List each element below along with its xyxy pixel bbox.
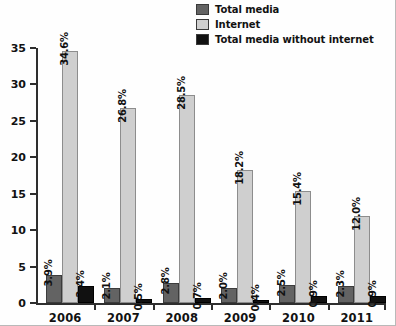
y-axis-tick-label: 20 [11, 151, 26, 164]
bar-value-label: 0.7% [192, 282, 203, 309]
bar-group: 2.1%26.8%0.5%2007 [94, 48, 152, 303]
legend-swatch-total-media-without-internet [196, 34, 209, 45]
x-axis-category-label: 2006 [36, 311, 94, 325]
bar: 26.8% [120, 108, 136, 303]
bar-value-label: 2.8% [160, 267, 171, 294]
bar-value-label: 18.2% [234, 152, 245, 186]
y-axis-tick-label: 15 [11, 187, 26, 200]
x-axis-tick [384, 305, 386, 310]
y-axis-tick-label: 10 [11, 224, 26, 237]
bar: 0.9% [311, 296, 327, 303]
bar-value-label: 2.4% [75, 270, 86, 297]
x-axis-tick [94, 305, 96, 310]
bar-group: 2.8%28.5%0.7%2008 [153, 48, 211, 303]
legend-label-total-media: Total media [215, 4, 279, 15]
bar-value-label: 26.8% [117, 89, 128, 123]
bar-chart: Total media Internet Total media without… [0, 0, 396, 326]
bar: 2.4% [78, 286, 94, 303]
bar-value-label: 2.5% [276, 269, 287, 296]
bar: 2.8% [163, 283, 179, 303]
x-axis-tick [211, 305, 213, 310]
bar: 0.7% [195, 298, 211, 303]
x-axis-tick [328, 305, 330, 310]
bar-group: 3.9%34.6%2.4%2006 [36, 48, 94, 303]
x-axis-category-label: 2007 [94, 311, 152, 325]
bar-group: 2.5%15.4%0.9%2010 [269, 48, 327, 303]
bar: 0.9% [370, 296, 386, 303]
bar-value-label: 34.6% [59, 32, 70, 66]
bar-value-label: 3.9% [43, 259, 54, 286]
bar-group: 2.0%18.2%0.4%2009 [211, 48, 269, 303]
y-axis-tick-label: 35 [11, 42, 26, 55]
legend-swatch-internet [196, 19, 209, 30]
bar-value-label: 2.0% [218, 273, 229, 300]
bar-value-label: 2.1% [101, 272, 112, 299]
legend-item-total-media: Total media [196, 2, 394, 16]
bar-value-label: 0.9% [367, 281, 378, 308]
bar: 28.5% [179, 95, 195, 303]
bar: 2.5% [279, 285, 295, 303]
bar-value-label: 2.3% [335, 271, 346, 298]
bar-value-label: 0.4% [250, 285, 261, 312]
bar: 2.0% [221, 288, 237, 303]
y-axis-tick-label: 25 [11, 114, 26, 127]
bar: 0.4% [253, 300, 269, 303]
y-axis-tick-label: 30 [11, 78, 26, 91]
x-axis-category-label: 2010 [269, 311, 327, 325]
legend-item-total-media-without-internet: Total media without internet [196, 32, 394, 46]
bar: 2.3% [338, 286, 354, 303]
bar: 0.5% [136, 299, 152, 303]
x-axis-tick [153, 305, 155, 310]
x-axis-tick [269, 305, 271, 310]
legend-label-internet: Internet [215, 19, 260, 30]
bar-value-label: 0.9% [308, 281, 319, 308]
legend-label-total-media-without-internet: Total media without internet [215, 34, 374, 45]
bar-value-label: 28.5% [176, 77, 187, 111]
bar-value-label: 0.5% [133, 284, 144, 311]
legend-item-internet: Internet [196, 17, 394, 31]
x-axis-category-label: 2011 [328, 311, 386, 325]
y-axis-tick-label: 5 [18, 260, 26, 273]
bar-value-label: 12.0% [351, 197, 362, 231]
chart-legend: Total media Internet Total media without… [196, 2, 394, 47]
bar-group: 2.3%12.0%0.9%2011 [328, 48, 386, 303]
x-axis-category-label: 2008 [153, 311, 211, 325]
bar: 2.1% [104, 288, 120, 303]
plot-area: 05101520253035 3.9%34.6%2.4%20062.1%26.8… [36, 48, 386, 303]
x-axis-category-label: 2009 [211, 311, 269, 325]
bar: 3.9% [46, 275, 62, 303]
bar-value-label: 15.4% [292, 172, 303, 206]
bar: 18.2% [237, 170, 253, 303]
bar: 34.6% [62, 51, 78, 303]
y-axis-tick-label: 0 [18, 297, 26, 310]
legend-swatch-total-media [196, 4, 209, 15]
